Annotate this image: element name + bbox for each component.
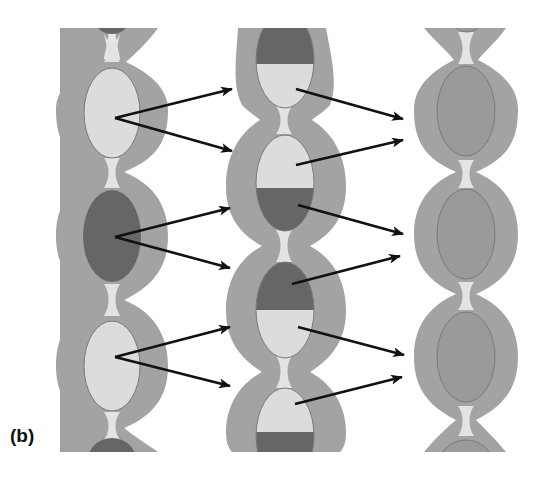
middle-cell-1 <box>256 12 314 108</box>
middle-column <box>226 12 346 483</box>
right-column <box>414 12 518 483</box>
middle-cell-3 <box>256 262 314 358</box>
right-cell-3 <box>437 312 495 402</box>
left-cell-2-dark <box>83 190 141 282</box>
right-cell-2 <box>437 189 495 279</box>
middle-cell-2 <box>256 135 314 231</box>
right-cell-bottom-partial <box>440 440 492 483</box>
left-cell-3-light <box>84 321 140 411</box>
panel-label: (b) <box>10 425 34 447</box>
left-cell-bottom-partial <box>88 438 136 482</box>
left-cell-top-partial <box>96 10 128 34</box>
diagram-figure <box>0 0 552 483</box>
right-cell-top-partial <box>453 12 481 32</box>
right-cell-1 <box>437 66 495 156</box>
